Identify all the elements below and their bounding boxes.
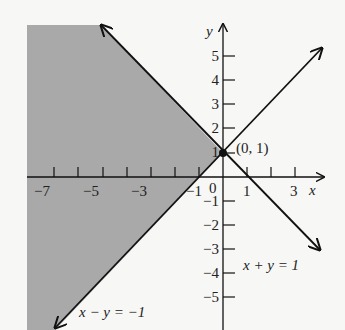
svg-text:−5: −5 <box>203 289 219 305</box>
svg-text:−3: −3 <box>131 183 147 199</box>
svg-text:−5: −5 <box>83 183 99 199</box>
x-axis-label: x <box>308 182 316 198</box>
svg-text:−2: −2 <box>203 217 219 233</box>
svg-text:−1: −1 <box>186 183 202 199</box>
svg-text:4: 4 <box>212 72 220 88</box>
svg-text:−3: −3 <box>203 241 219 257</box>
svg-text:2: 2 <box>212 120 220 136</box>
graph: y x −7 −5 −3 −1 0 1 3 5 4 3 2 1 −1 −2 −3… <box>0 0 345 330</box>
svg-text:5: 5 <box>212 48 220 64</box>
line1-label: x + y = 1 <box>242 257 299 273</box>
svg-text:3: 3 <box>290 183 298 199</box>
point-label: (0, 1) <box>236 140 269 157</box>
svg-text:−1: −1 <box>203 193 219 209</box>
line2-label: x − y = −1 <box>78 304 145 320</box>
svg-text:3: 3 <box>212 96 220 112</box>
intersection-point <box>219 149 227 157</box>
svg-text:1: 1 <box>243 183 251 199</box>
y-axis-label: y <box>204 23 213 39</box>
svg-text:1: 1 <box>212 144 220 160</box>
svg-text:−4: −4 <box>203 265 219 281</box>
svg-text:−7: −7 <box>34 183 50 199</box>
